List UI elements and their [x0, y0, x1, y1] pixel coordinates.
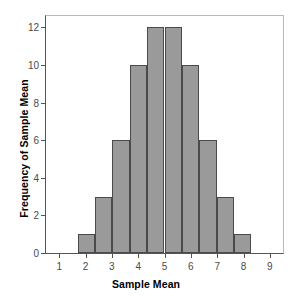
y-axis-tick: [41, 27, 46, 28]
x-axis-tick-label: 6: [188, 261, 194, 272]
histogram-bar: [95, 197, 112, 253]
y-axis-tick-label: 2: [33, 210, 39, 221]
histogram-bar: [165, 27, 182, 253]
x-axis-tick: [138, 253, 139, 258]
x-axis-tick-label: 1: [56, 261, 62, 272]
plot-area: 024681012123456789: [45, 15, 284, 254]
x-axis-tick: [217, 253, 218, 258]
histogram-bar: [182, 65, 199, 253]
x-axis-tick-label: 3: [109, 261, 115, 272]
y-axis-tick-label: 8: [33, 97, 39, 108]
x-axis-tick-label: 2: [83, 261, 89, 272]
y-axis-title: Frequency of Sample Mean: [16, 0, 32, 297]
histogram-bar: [199, 140, 216, 253]
y-axis-tick-label: 4: [33, 172, 39, 183]
histogram-bar: [78, 234, 95, 253]
histogram-bar: [130, 65, 147, 253]
histogram-bar: [217, 197, 234, 253]
x-axis-tick-label: 4: [135, 261, 141, 272]
x-axis-tick: [86, 253, 87, 258]
histogram-chart: Frequency of Sample Mean 024681012123456…: [0, 0, 292, 297]
x-axis-tick-label: 8: [241, 261, 247, 272]
x-axis-tick-label: 5: [162, 261, 168, 272]
y-axis-tick: [41, 253, 46, 254]
bar-series: [46, 16, 283, 253]
y-axis-tick-label: 0: [33, 248, 39, 259]
y-axis-tick-label: 12: [28, 22, 39, 33]
x-axis-tick-label: 9: [267, 261, 273, 272]
y-axis-tick: [41, 178, 46, 179]
y-axis-tick: [41, 65, 46, 66]
histogram-bar: [234, 234, 251, 253]
x-axis-tick: [244, 253, 245, 258]
y-axis-tick: [41, 215, 46, 216]
y-axis-tick-label: 6: [33, 135, 39, 146]
y-axis-tick: [41, 140, 46, 141]
x-axis-title: Sample Mean: [0, 278, 292, 290]
y-axis-tick-label: 10: [28, 59, 39, 70]
x-axis-tick: [191, 253, 192, 258]
x-axis-tick: [165, 253, 166, 258]
y-axis-tick: [41, 103, 46, 104]
x-axis-tick: [59, 253, 60, 258]
histogram-bar: [147, 27, 164, 253]
x-axis-tick: [270, 253, 271, 258]
histogram-bar: [112, 140, 129, 253]
x-axis-tick-label: 7: [214, 261, 220, 272]
x-axis-tick: [112, 253, 113, 258]
